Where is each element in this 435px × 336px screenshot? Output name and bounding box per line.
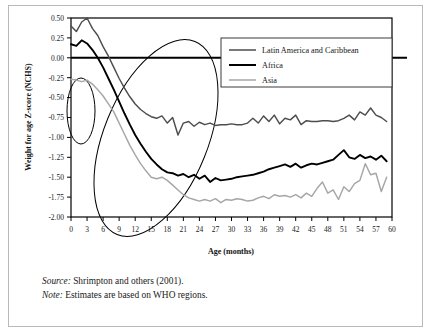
source-label: Source: [42,276,71,286]
note-label: Note: [42,290,63,300]
y-tick-label: -2.00 [48,213,64,222]
legend-label-0[interactable]: Latin America and Caribbean [262,46,359,55]
x-tick-label: 21 [180,225,188,234]
y-tick-label: 0.50 [51,14,64,23]
y-tick-label: 0.25 [51,34,64,43]
chart-legend[interactable]: Latin America and CaribbeanAfricaAsia [221,38,392,87]
legend-label-2[interactable]: Asia [262,76,277,85]
x-tick-label: 27 [212,225,220,234]
x-tick-label: 18 [164,225,172,234]
x-tick-label: 51 [340,225,348,234]
x-tick-label: 60 [388,225,396,234]
x-tick-label: 48 [324,225,332,234]
x-tick-label: 12 [131,225,139,234]
y-axis-title: Weight for age Z-score (NCHS) [24,63,33,171]
chart-svg: 0.500.250.00-0.25-0.50-0.75-1.00-1.25-1.… [9,6,424,266]
note-text: Estimates are based on WHO regions. [63,290,208,300]
x-tick-label: 57 [372,225,380,234]
y-tick-label: -1.75 [48,193,64,202]
x-tick-label: 42 [292,225,300,234]
x-tick-label: 39 [276,225,284,234]
x-tick-label: 54 [356,225,364,234]
y-tick-label: -0.25 [48,74,64,83]
y-tick-label: 0.00 [51,54,64,63]
chart-plot-area: 0.500.250.00-0.25-0.50-0.75-1.00-1.25-1.… [9,6,424,266]
x-tick-label: 6 [101,225,105,234]
x-tick-label: 36 [260,225,268,234]
x-tick-label: 33 [244,225,252,234]
y-tick-label: -0.75 [48,113,64,122]
figure-footnotes: Source: Shrimpton and others (2001). Not… [42,274,402,302]
source-line: Source: Shrimpton and others (2001). [42,274,402,288]
x-tick-label: 45 [308,225,316,234]
source-text: Shrimpton and others (2001). [71,276,184,286]
x-tick-label: 0 [69,225,73,234]
x-axis-title: Age (months) [208,247,254,256]
y-tick-label: -0.50 [48,93,64,102]
x-tick-label: 3 [85,225,89,234]
y-tick-label: -1.00 [48,133,64,142]
note-line: Note: Estimates are based on WHO regions… [42,288,402,302]
x-tick-label: 24 [196,225,204,234]
x-tick-label: 30 [228,225,236,234]
y-tick-label: -1.50 [48,173,64,182]
x-tick-label: 9 [117,225,121,234]
legend-label-1[interactable]: Africa [262,61,283,70]
figure-frame: 0.500.250.00-0.25-0.50-0.75-1.00-1.25-1.… [8,5,423,327]
x-axis-ticks: 03691215182124273033363942454851545760 [69,217,396,234]
y-tick-label: -1.25 [48,153,64,162]
